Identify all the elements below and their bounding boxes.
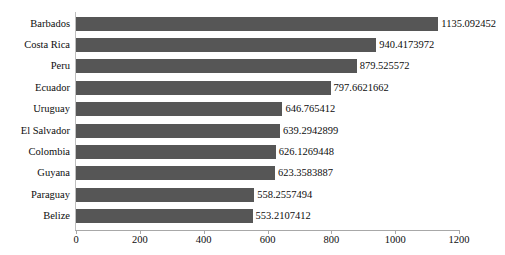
- category-label: Colombia: [0, 146, 70, 158]
- bar: [76, 59, 357, 73]
- bar-row: Barbados1135.092452: [0, 13, 505, 34]
- category-label: Paraguay: [0, 189, 70, 201]
- x-axis-tick-label: 600: [260, 234, 276, 246]
- x-axis-tick-label: 0: [73, 234, 78, 246]
- bar: [76, 17, 438, 31]
- bar: [76, 145, 276, 159]
- x-axis-tick-label: 1000: [385, 234, 406, 246]
- bar-value-label: 553.2107412: [253, 210, 311, 222]
- bar-row: Ecuador797.6621662: [0, 77, 505, 98]
- bar-row: Guyana623.3583887: [0, 163, 505, 184]
- x-axis-tick-label: 800: [323, 234, 339, 246]
- bar-value-label: 626.1269448: [276, 146, 334, 158]
- category-label: Uruguay: [0, 103, 70, 115]
- bar-value-label: 646.765412: [282, 103, 335, 115]
- bar: [76, 102, 282, 116]
- bar-value-label: 940.4173972: [376, 39, 434, 51]
- bar-value-label: 623.3583887: [275, 167, 333, 179]
- x-axis-tick-label: 200: [132, 234, 148, 246]
- bar-row: Uruguay646.765412: [0, 99, 505, 120]
- category-label: Belize: [0, 210, 70, 222]
- bar-value-label: 639.2942899: [280, 125, 338, 137]
- bar: [76, 124, 280, 138]
- bar-row: Peru879.525572: [0, 56, 505, 77]
- category-label: Ecuador: [0, 82, 70, 94]
- bar-value-label: 797.6621662: [331, 82, 389, 94]
- category-label: Guyana: [0, 167, 70, 179]
- bar-row: Paraguay558.2557494: [0, 184, 505, 205]
- plot-area: Barbados1135.092452Costa Rica940.4173972…: [0, 0, 505, 255]
- x-axis-tick-label: 1200: [449, 234, 470, 246]
- bar-value-label: 1135.092452: [438, 18, 496, 30]
- bar-row: El Salvador639.2942899: [0, 120, 505, 141]
- bar-row: Belize553.2107412: [0, 206, 505, 227]
- bar-row: Costa Rica940.4173972: [0, 34, 505, 55]
- bar: [76, 166, 275, 180]
- x-axis-tick-label: 400: [196, 234, 212, 246]
- category-label: El Salvador: [0, 125, 70, 137]
- bar: [76, 188, 254, 202]
- bar: [76, 38, 376, 52]
- bar: [76, 81, 331, 95]
- bar: [76, 209, 253, 223]
- bar-chart: Barbados1135.092452Costa Rica940.4173972…: [0, 0, 505, 255]
- bar-value-label: 879.525572: [357, 60, 410, 72]
- category-label: Peru: [0, 60, 70, 72]
- bar-value-label: 558.2557494: [254, 189, 312, 201]
- category-label: Barbados: [0, 18, 70, 30]
- bar-row: Colombia626.1269448: [0, 141, 505, 162]
- category-label: Costa Rica: [0, 39, 70, 51]
